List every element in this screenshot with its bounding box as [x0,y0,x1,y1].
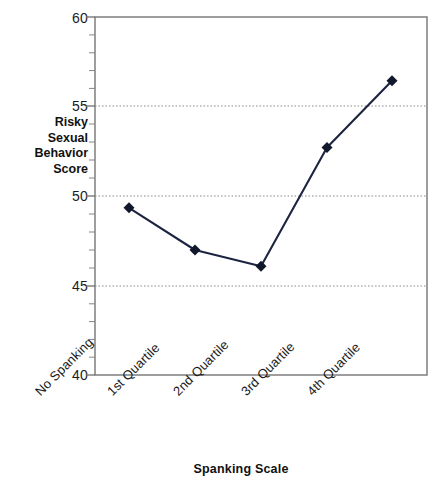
x-axis-title: Spanking Scale [0,462,438,476]
data-point-markers [124,75,398,271]
chart-container: 60 55 50 45 40 Risky Sexual Behavior Sco… [0,0,438,493]
x-axis-title-text: Spanking Scale [193,462,288,476]
data-point-0 [124,202,135,213]
data-point-2 [256,261,267,272]
data-point-1 [190,245,201,256]
gridlines [95,106,427,286]
data-series-line [129,81,392,266]
plot-svg [0,0,438,493]
